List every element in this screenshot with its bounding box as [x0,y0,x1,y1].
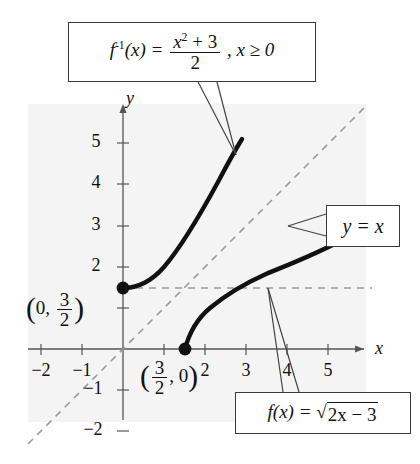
radical: √2x − 3 [316,402,378,426]
inverse-numerator: x2 + 3 [170,32,220,53]
y-tick-label-2: 2 [84,255,108,276]
point-label-three-halves-zero: ( 3 2 , 0) [140,358,198,398]
point-three-halves-zero [179,343,192,356]
point-num-2: 3 [152,358,168,378]
y-tick-label--2: −2 [78,419,108,440]
point-fraction-2: 3 2 [152,358,168,398]
inverse-formula-box: f-1(x) = x2 + 3 2 , x ≥ 0 [68,22,316,82]
inverse-formula-text: f-1(x) = x2 + 3 2 , x ≥ 0 [110,32,275,72]
right-paren: ) [74,297,84,321]
left-paren: ( [26,297,36,321]
y-tick-label--1: −1 [78,378,108,399]
x-tick-label--2: −2 [27,360,55,381]
num-rest: + 3 [192,31,217,52]
x-axis-label: x [375,338,383,359]
line-label-text: y = x [342,215,383,238]
inverse-denominator: 2 [187,53,203,72]
point-fraction: 3 2 [57,290,73,330]
y-tick-label-3: 3 [84,214,108,235]
radical-sign: √ [316,402,326,426]
inverse-condition: , x ≥ 0 [227,39,274,60]
function-formula-text: f(x) = √2x − 3 [268,401,379,426]
num-power: 2 [182,31,188,44]
line-label-box: y = x [326,205,400,247]
point-label-zero-three-halves: (0, 3 2 ) [26,290,84,330]
left-paren-2: ( [140,365,150,389]
point-zero-three-halves [117,282,130,295]
radicand: 2x − 3 [327,402,379,426]
num-x: x [173,31,181,52]
point-label-lead: 0, [36,297,50,318]
x-tick-label-5: 5 [314,360,342,381]
right-paren-2: ) [188,365,198,389]
y-tick-label-4: 4 [84,172,108,193]
function-arg: (x) = [273,401,312,422]
y-axis-label: y [126,88,134,109]
figure-canvas: f-1(x) = x2 + 3 2 , x ≥ 0 y = x f(x) = √… [0,0,420,464]
inverse-arg: (x) = [125,39,164,60]
function-formula-box: f(x) = √2x − 3 [235,392,411,434]
point-label-tail: , 0 [169,365,188,386]
point-num: 3 [57,290,73,310]
x-tick-label-4: 4 [273,360,301,381]
point-den-2: 2 [152,378,168,397]
y-tick-label-5: 5 [84,131,108,152]
inverse-fraction: x2 + 3 2 [170,32,220,72]
point-den: 2 [57,310,73,329]
x-tick-label-3: 3 [232,360,260,381]
inverse-exponent: -1 [115,39,125,52]
